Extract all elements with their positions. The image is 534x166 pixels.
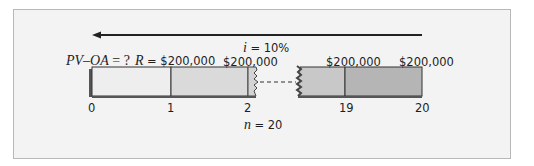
n-periods-label: n = 20 [244, 118, 282, 132]
timeline-bar-left [92, 67, 258, 97]
payment-period-19: $200,000 [326, 55, 381, 69]
payment-r-label: R = $200,000 [135, 54, 215, 68]
period-0: 0 [88, 101, 95, 115]
arrow-left-icon [92, 32, 422, 39]
pv-oa-label: PV–OA = ? [66, 54, 130, 68]
interest-rate-label: i = 10% [243, 41, 289, 55]
timeline-graphic [0, 0, 534, 166]
period-2: 2 [244, 101, 251, 115]
period-19: 19 [339, 101, 354, 115]
payment-period-20: $200,000 [399, 55, 454, 69]
period-20: 20 [415, 101, 430, 115]
period-1: 1 [167, 101, 174, 115]
payment-period-2: $200,000 [223, 55, 278, 69]
timeline-bar-right [297, 66, 422, 97]
